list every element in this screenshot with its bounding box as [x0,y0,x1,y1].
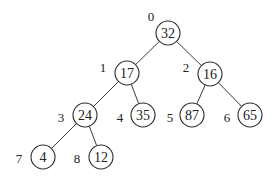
node-value: 17 [120,66,134,81]
tree-node-0: 320 [148,9,180,46]
node-index-label: 6 [224,110,231,125]
tree-node-8: 128 [74,145,113,169]
node-value: 65 [243,108,257,123]
edge-1-3 [93,81,118,106]
node-index-label: 1 [100,60,107,75]
node-index-label: 3 [58,110,65,125]
edge-3-7 [51,123,76,148]
tree-node-3: 243 [58,103,97,127]
edge-2-5 [197,85,205,104]
edge-0-1 [136,41,160,64]
node-index-label: 2 [183,60,190,75]
node-value: 35 [136,108,150,123]
tree-node-2: 162 [183,60,222,87]
node-index-label: 0 [148,9,155,24]
tree-edges [51,41,241,148]
node-value: 32 [161,26,175,41]
node-value: 24 [78,108,92,123]
node-value: 4 [40,150,47,165]
node-index-label: 5 [167,110,174,125]
tree-node-7: 47 [16,145,55,169]
edge-3-8 [89,126,96,146]
node-value: 16 [203,67,217,82]
tree-node-5: 875 [167,103,204,127]
node-index-label: 8 [74,151,81,166]
heap-tree-diagram: 32017116224335487565647128 [0,0,278,182]
node-value: 12 [94,150,108,165]
node-value: 87 [185,108,199,123]
tree-node-1: 171 [100,60,139,86]
edge-1-4 [131,84,138,104]
tree-node-4: 354 [117,103,155,127]
edge-2-6 [218,83,241,107]
node-index-label: 4 [117,110,124,125]
tree-node-6: 656 [224,103,262,127]
node-index-label: 7 [16,151,23,166]
